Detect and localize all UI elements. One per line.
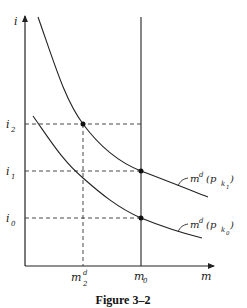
leader-md-pk0 xyxy=(178,224,188,232)
label-md-pk1: m d (p k 1 ) xyxy=(190,171,234,190)
svg-text:0: 0 xyxy=(143,277,148,285)
svg-text:i: i xyxy=(6,118,10,131)
point-upper-at-i1 xyxy=(139,169,144,174)
tick-m0: m 0 xyxy=(134,270,148,285)
svg-text:m: m xyxy=(71,271,81,284)
svg-text:2: 2 xyxy=(82,280,88,288)
svg-text:i: i xyxy=(6,165,10,178)
label-md-pk0: m d (p k 0 ) xyxy=(190,217,234,236)
point-lower-at-i0 xyxy=(139,216,144,221)
svg-text:i: i xyxy=(6,212,10,225)
x-axis-label: m xyxy=(201,270,211,283)
svg-text:(p: (p xyxy=(206,219,217,230)
point-upper-at-i2 xyxy=(81,122,86,127)
svg-text:0: 0 xyxy=(226,230,230,236)
tick-i1: i 1 xyxy=(6,165,15,181)
tick-m2d: m d 2 xyxy=(71,269,88,288)
money-demand-diagram: i m i 2 i 1 i 0 m d 2 m 0 m d (p k 1 ) m… xyxy=(0,0,247,308)
curve-md-pk1 xyxy=(38,17,208,197)
svg-text:d: d xyxy=(199,217,204,225)
tick-i2: i 2 xyxy=(6,118,16,134)
svg-text:d: d xyxy=(83,269,88,277)
tick-i0: i 0 xyxy=(6,212,16,228)
svg-text:0: 0 xyxy=(11,220,16,228)
svg-text:k: k xyxy=(221,226,225,234)
svg-text:): ) xyxy=(229,173,234,184)
curve-md-pk0 xyxy=(33,116,202,238)
figure-caption: Figure 3–2 xyxy=(96,293,151,307)
svg-text:k: k xyxy=(221,180,225,188)
svg-text:(p: (p xyxy=(206,173,217,184)
svg-text:2: 2 xyxy=(10,126,16,134)
svg-text:1: 1 xyxy=(226,184,230,190)
y-axis-label: i xyxy=(14,15,18,28)
svg-text:1: 1 xyxy=(11,173,15,181)
svg-text:d: d xyxy=(199,171,204,179)
leader-md-pk1 xyxy=(178,178,188,186)
svg-text:): ) xyxy=(229,219,234,230)
